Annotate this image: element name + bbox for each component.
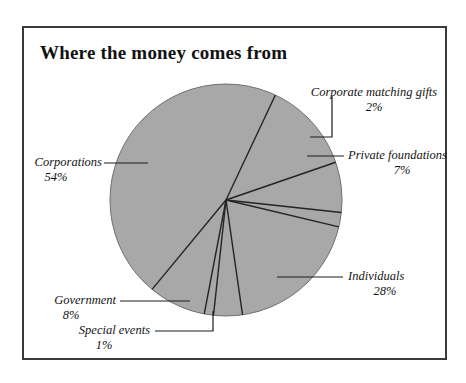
label-government: Government 8% [26,293,116,323]
label-corporate-matching-gifts-percent: 2% [288,100,460,115]
label-corporations-name: Corporations [35,155,102,169]
label-corporate-matching-gifts-name: Corporate matching gifts [311,85,437,99]
label-individuals-name: Individuals [348,269,404,283]
label-government-percent: 8% [26,308,116,323]
pie-chart-figure: Where the money comes from Corporations [0,0,466,383]
label-corporations-percent: 54% [10,170,102,185]
label-corporations: Corporations 54% [10,155,102,185]
label-special-events: Special events 1% [58,323,150,353]
label-private-foundations-name: Private foundations [348,148,447,162]
label-corporate-matching-gifts: Corporate matching gifts 2% [288,85,460,115]
label-special-events-percent: 1% [58,338,150,353]
label-individuals-percent: 28% [348,284,422,299]
label-individuals: Individuals 28% [348,269,448,299]
label-private-foundations-percent: 7% [348,163,456,178]
label-special-events-name: Special events [79,323,150,337]
label-government-name: Government [54,293,116,307]
label-private-foundations: Private foundations 7% [348,148,464,178]
